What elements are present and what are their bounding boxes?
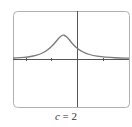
caption-value: = 2 bbox=[60, 110, 77, 122]
chart-caption: c = 2 bbox=[0, 110, 132, 122]
plot-area bbox=[0, 0, 132, 127]
curve-line bbox=[13, 35, 129, 58]
